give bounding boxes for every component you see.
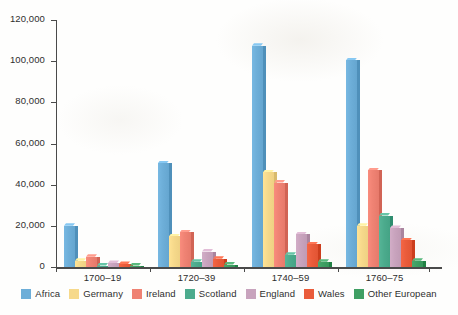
bar-front-face bbox=[401, 240, 412, 267]
legend-item[interactable]: Ireland bbox=[132, 288, 176, 299]
bar[interactable] bbox=[252, 46, 263, 267]
bar-slot bbox=[263, 172, 274, 267]
bar[interactable] bbox=[64, 226, 75, 267]
bar-side-face bbox=[235, 265, 238, 267]
y-axis-tick-label: 60,000 bbox=[15, 137, 45, 148]
bar[interactable] bbox=[169, 236, 180, 267]
legend-item[interactable]: Germany bbox=[69, 288, 123, 299]
x-axis-tick-mark bbox=[150, 267, 151, 272]
bar[interactable] bbox=[86, 257, 97, 267]
bar[interactable] bbox=[357, 226, 368, 267]
legend-item[interactable]: Scotland bbox=[185, 288, 237, 299]
bar-front-face bbox=[119, 264, 130, 267]
bar-side-face bbox=[329, 262, 332, 267]
bar-front-face bbox=[318, 262, 329, 267]
bar[interactable] bbox=[412, 261, 423, 267]
bar-front-face bbox=[263, 172, 274, 267]
legend-swatch-icon bbox=[246, 289, 256, 299]
legend-item[interactable]: Wales bbox=[304, 288, 345, 299]
bar[interactable] bbox=[346, 60, 357, 267]
y-axis-tick-label: 20,000 bbox=[15, 219, 45, 230]
bar-front-face bbox=[285, 255, 296, 267]
bar-slot bbox=[379, 216, 390, 267]
bar[interactable] bbox=[318, 262, 329, 267]
bar[interactable] bbox=[274, 183, 285, 267]
legend-item[interactable]: Other European bbox=[354, 288, 437, 299]
bar[interactable] bbox=[202, 252, 213, 267]
bar-group-bars bbox=[158, 20, 235, 267]
legend-item-label: Scotland bbox=[199, 288, 237, 299]
legend-swatch-icon bbox=[21, 289, 31, 299]
bar-slot bbox=[191, 262, 202, 267]
bar-front-face bbox=[252, 46, 263, 267]
bar-slot bbox=[108, 263, 119, 267]
y-axis-tick-label: 0 bbox=[40, 260, 45, 271]
bar-slot bbox=[158, 163, 169, 267]
bar-front-face bbox=[307, 244, 318, 267]
bar-front-face bbox=[296, 234, 307, 267]
bar[interactable] bbox=[263, 172, 274, 267]
bar-front-face bbox=[108, 263, 119, 267]
bar-slot bbox=[64, 226, 75, 267]
legend-item[interactable]: England bbox=[246, 288, 296, 299]
bar[interactable] bbox=[368, 170, 379, 267]
chart-legend: AfricaGermanyIrelandScotlandEnglandWales… bbox=[0, 288, 458, 299]
bar-front-face bbox=[368, 170, 379, 267]
bar[interactable] bbox=[180, 232, 191, 267]
bar-slot bbox=[119, 264, 130, 267]
bar[interactable] bbox=[97, 266, 108, 268]
bar-front-face bbox=[169, 236, 180, 267]
bar-front-face bbox=[64, 226, 75, 267]
bar[interactable] bbox=[296, 234, 307, 267]
bar-slot bbox=[202, 252, 213, 267]
bar-front-face bbox=[357, 226, 368, 267]
bar[interactable] bbox=[108, 263, 119, 267]
legend-swatch-icon bbox=[354, 289, 364, 299]
legend-item-label: Wales bbox=[318, 288, 345, 299]
plot-area: 1700–191720–391740–591760–75 bbox=[56, 20, 442, 267]
bar[interactable] bbox=[379, 216, 390, 267]
bar[interactable] bbox=[75, 261, 86, 267]
bar[interactable] bbox=[224, 265, 235, 267]
bar-slot bbox=[169, 236, 180, 267]
bar[interactable] bbox=[191, 262, 202, 267]
bar-slot bbox=[401, 240, 412, 267]
bar[interactable] bbox=[390, 228, 401, 267]
bar-slot bbox=[274, 183, 285, 267]
bar-slot bbox=[368, 170, 379, 267]
bar-front-face bbox=[191, 262, 202, 267]
bar-side-face bbox=[141, 266, 144, 268]
bar-slot bbox=[97, 266, 108, 268]
bar-slot bbox=[224, 265, 235, 267]
x-axis-group-label: 1760–75 bbox=[325, 272, 444, 283]
bar-front-face bbox=[224, 265, 235, 267]
bar-front-face bbox=[158, 163, 169, 267]
bar[interactable] bbox=[307, 244, 318, 267]
bar-front-face bbox=[379, 216, 390, 267]
bar[interactable] bbox=[158, 163, 169, 267]
bar-slot bbox=[75, 261, 86, 267]
legend-item-label: Other European bbox=[368, 288, 437, 299]
legend-item-label: Germany bbox=[83, 288, 123, 299]
y-axis-tick-label: 40,000 bbox=[15, 178, 45, 189]
bar-slot bbox=[180, 232, 191, 267]
bar-front-face bbox=[390, 228, 401, 267]
bar-group-bars bbox=[346, 20, 423, 267]
bar-side-face bbox=[423, 261, 426, 267]
bar[interactable] bbox=[130, 266, 141, 268]
bar-slot bbox=[86, 257, 97, 267]
bar[interactable] bbox=[119, 264, 130, 267]
bar[interactable] bbox=[401, 240, 412, 267]
bar-front-face bbox=[213, 259, 224, 267]
bar-slot bbox=[412, 261, 423, 267]
bar-front-face bbox=[75, 261, 86, 267]
bar[interactable] bbox=[213, 259, 224, 267]
y-axis-tick-label: 100,000 bbox=[10, 54, 45, 65]
legend-swatch-icon bbox=[185, 289, 195, 299]
bar-slot bbox=[285, 255, 296, 267]
bar[interactable] bbox=[285, 255, 296, 267]
legend-item[interactable]: Africa bbox=[21, 288, 60, 299]
bar-slot bbox=[130, 266, 141, 268]
bar-group-bars bbox=[64, 20, 141, 267]
bar-slot bbox=[346, 60, 357, 267]
